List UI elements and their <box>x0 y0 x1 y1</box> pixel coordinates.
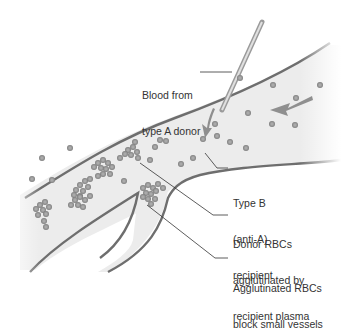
label-line: Type B <box>233 197 273 209</box>
label-line: Blood from <box>142 89 200 101</box>
label-line: Agglutinated RBCs <box>233 282 323 294</box>
label-line: type A donor <box>142 125 200 137</box>
label-line: Donor RBCs <box>233 238 309 250</box>
blockage-label: Agglutinated RBCs block small vessels <box>233 258 323 332</box>
label-line: block small vessels <box>233 318 323 330</box>
donor-label: Blood from type A donor <box>142 65 200 161</box>
